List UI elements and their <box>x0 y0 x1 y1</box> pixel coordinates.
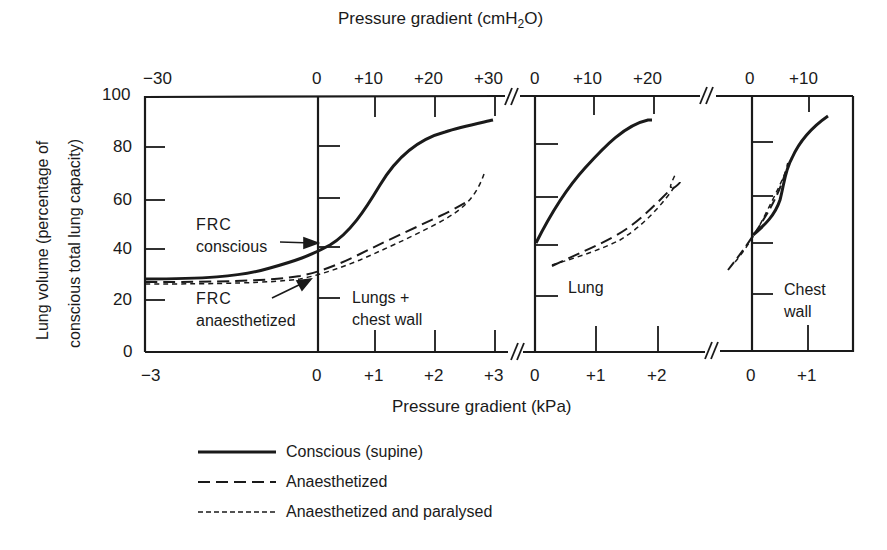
top-tick-label: 0 <box>530 70 539 87</box>
series-paralysed-panel3 <box>735 160 790 262</box>
bottom-tick-label: +2 <box>647 367 666 384</box>
y-tick-label: 0 <box>123 343 132 360</box>
annotation-line: conscious <box>196 236 267 258</box>
annotation-frc-anaesthetized: FRC anaesthetized <box>196 288 296 332</box>
y-tick-label: 20 <box>113 291 132 308</box>
series-anaesthetized-panel2 <box>552 182 680 266</box>
top-tick-label: 0 <box>312 70 321 87</box>
legend-label-conscious: Conscious (supine) <box>286 444 423 460</box>
series-anaesthetized-panel3 <box>728 163 788 270</box>
annotation-line: FRC <box>196 288 296 310</box>
legend-label-anaesthetized: Anaesthetized <box>286 474 387 490</box>
panel-label-line: wall <box>784 301 826 323</box>
panel-label-chest-wall: Chest wall <box>784 279 826 323</box>
bottom-tick-label: 0 <box>530 367 539 384</box>
legend-label-paralysed: Anaesthetized and paralysed <box>286 504 492 520</box>
top-tick-label: +20 <box>414 70 443 87</box>
top-tick-label: −30 <box>143 70 172 87</box>
bottom-tick-label: +1 <box>586 367 605 384</box>
panel-label-line: chest wall <box>352 309 422 331</box>
top-axis-title-suffix: O) <box>524 9 543 28</box>
series-paralysed-panel2 <box>552 175 675 265</box>
top-tick-label: +10 <box>354 70 383 87</box>
annotation-line: anaesthetized <box>196 310 296 332</box>
y-axis-title-line1: Lung volume (percentage of <box>33 141 53 340</box>
panel-chest-wall-curves <box>728 116 828 270</box>
y-tick-label: 80 <box>113 138 132 155</box>
top-tick-label: +10 <box>573 70 602 87</box>
top-axis-title: Pressure gradient (cmH2O) <box>338 10 543 30</box>
bottom-tick-label: +3 <box>484 367 503 384</box>
y-tick-label: 60 <box>113 191 132 208</box>
series-conscious-panel2 <box>536 120 652 243</box>
top-tick-label: +20 <box>633 70 662 87</box>
annotation-frc-conscious: FRC conscious <box>196 214 267 258</box>
y-tick-label: 40 <box>113 240 132 257</box>
bottom-tick-label: +1 <box>797 367 816 384</box>
bottom-tick-label: 0 <box>746 367 755 384</box>
top-tick-label: +10 <box>789 70 818 87</box>
bottom-tick-label: 0 <box>312 367 321 384</box>
top-axis-title-text: Pressure gradient (cmH <box>338 9 518 28</box>
y-tick-label: 100 <box>102 86 130 103</box>
bottom-tick-label: −3 <box>141 367 160 384</box>
top-tick-label: 0 <box>745 70 754 87</box>
panel-label-lung: Lung <box>568 280 604 296</box>
bottom-axis-title: Pressure gradient (kPa) <box>392 398 572 415</box>
panel-label-line: Lungs + <box>352 287 422 309</box>
bottom-tick-label: +1 <box>364 367 383 384</box>
top-tick-label: +30 <box>474 70 503 87</box>
axis-break-marks <box>505 87 718 360</box>
y-axis-title-line2: conscious total lung capacity) <box>65 139 85 348</box>
panel-label-line: Chest <box>784 279 826 301</box>
bottom-tick-label: +2 <box>424 367 443 384</box>
panel-label-lungs-chest-wall: Lungs + chest wall <box>352 287 422 331</box>
legend-swatches <box>198 452 276 512</box>
annotation-line: FRC <box>196 214 267 236</box>
